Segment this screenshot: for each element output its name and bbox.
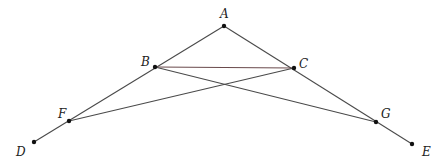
- point-a: [222, 24, 226, 28]
- point-b: [153, 65, 157, 69]
- point-label-c: C: [299, 57, 308, 71]
- point-label-b: B: [140, 55, 150, 69]
- geometry-diagram: ABCDEFG: [0, 0, 444, 164]
- point-d: [32, 140, 36, 144]
- point-g: [374, 120, 378, 124]
- segment-ae: [224, 26, 412, 144]
- labels-group: ABCDEFG: [15, 7, 431, 159]
- segment-cf: [69, 68, 294, 121]
- point-f: [67, 119, 71, 123]
- point-c: [292, 66, 296, 70]
- point-label-e: E: [421, 145, 431, 159]
- segment-bc: [155, 67, 294, 68]
- point-label-f: F: [57, 107, 67, 121]
- point-e: [410, 142, 414, 146]
- point-label-a: A: [219, 7, 229, 21]
- point-label-g: G: [381, 107, 391, 121]
- segments-group: [34, 26, 412, 144]
- point-label-d: D: [15, 145, 26, 159]
- segment-ad: [34, 26, 224, 142]
